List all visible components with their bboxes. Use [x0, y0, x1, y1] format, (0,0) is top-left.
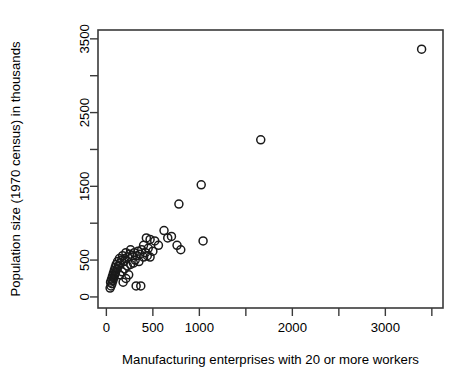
data-points-group: [106, 45, 426, 292]
x-tick-label: 2000: [278, 320, 307, 335]
scatter-plot-figure: 05001000200030000500150025003500Populati…: [0, 0, 452, 368]
data-point: [418, 45, 426, 53]
y-axis-title: Population size (1970 census) in thousan…: [8, 41, 23, 297]
y-tick-label: 3500: [77, 24, 92, 53]
y-tick-label: 2500: [77, 98, 92, 127]
data-point: [160, 227, 168, 235]
data-point: [257, 136, 265, 144]
y-tick-label: 1500: [77, 172, 92, 201]
data-point: [197, 181, 205, 189]
x-axis-title: Manufacturing enterprises with 20 or mor…: [122, 352, 419, 367]
x-tick-label: 0: [103, 320, 110, 335]
x-tick-label: 500: [142, 320, 164, 335]
y-tick-label: 500: [77, 249, 92, 271]
plot-frame: [98, 30, 443, 308]
x-axis: 0500100020003000: [103, 308, 432, 335]
data-point: [199, 237, 207, 245]
plot-canvas: 05001000200030000500150025003500Populati…: [0, 0, 452, 368]
x-tick-label: 3000: [371, 320, 400, 335]
y-axis: 0500150025003500: [77, 24, 98, 300]
y-tick-label: 0: [77, 293, 92, 300]
data-point: [175, 200, 183, 208]
x-tick-label: 1000: [185, 320, 214, 335]
